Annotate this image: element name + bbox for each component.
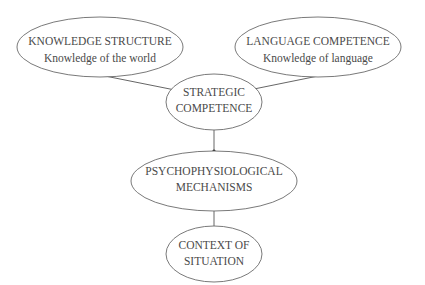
node-psycho-line2: MECHANISMS	[176, 181, 253, 193]
node-psycho-line1: PSYCHOPHYSIOLOGICAL	[145, 165, 282, 177]
node-knowledge-structure: KNOWLEDGE STRUCTURE Knowledge of the wor…	[17, 17, 183, 77]
node-context-line1: CONTEXT OF	[178, 239, 249, 251]
node-knowledge-title: KNOWLEDGE STRUCTURE	[28, 35, 171, 47]
node-context-of-situation: CONTEXT OF SITUATION	[166, 226, 262, 282]
node-strategic-competence: STRATEGIC COMPETENCE	[166, 74, 262, 130]
node-context-line2: SITUATION	[184, 255, 245, 267]
node-psychophysiological-mechanisms: PSYCHOPHYSIOLOGICAL MECHANISMS	[131, 151, 297, 211]
node-language-subtitle: Knowledge of language	[263, 52, 373, 65]
node-strategic-line2: COMPETENCE	[176, 102, 253, 114]
node-language-competence: LANGUAGE COMPETENCE Knowledge of languag…	[235, 17, 401, 77]
node-strategic-line1: STRATEGIC	[183, 86, 245, 98]
node-knowledge-subtitle: Knowledge of the world	[44, 52, 156, 65]
edge-knowledge-to-strategic	[100, 75, 175, 90]
diagram-canvas: KNOWLEDGE STRUCTURE Knowledge of the wor…	[0, 0, 425, 285]
node-language-title: LANGUAGE COMPETENCE	[246, 35, 389, 47]
